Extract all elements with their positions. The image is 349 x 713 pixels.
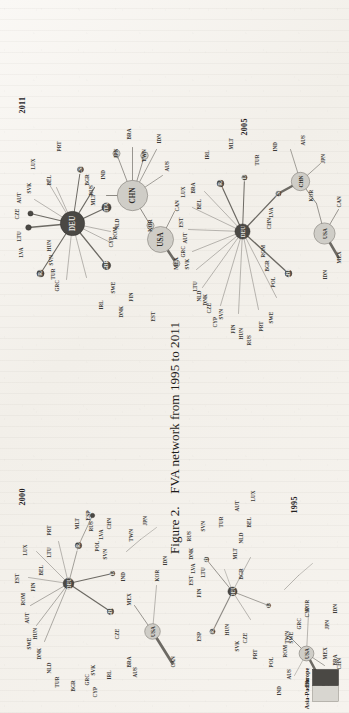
- node-label-gbr-1995: GBR: [203, 553, 209, 565]
- svg-text:HUN: HUN: [237, 327, 243, 339]
- svg-text:MLT: MLT: [73, 517, 79, 529]
- svg-text:SVK: SVK: [89, 664, 95, 675]
- node-label-fra-1995: FRA: [209, 625, 215, 636]
- node-label-usa-2000: USA: [149, 626, 155, 637]
- svg-text:SVN: SVN: [217, 308, 223, 319]
- svg-text:FIN: FIN: [229, 324, 235, 333]
- year-label-1995: 1995: [289, 496, 298, 513]
- svg-text:JPN: JPN: [319, 153, 325, 163]
- node-label-esp-2005: ESP: [275, 187, 281, 198]
- figure-caption: Figure 2. FVA network from 1995 to 2011: [167, 322, 183, 554]
- node-label-gbr-2005: GBR: [285, 267, 291, 279]
- svg-text:AUT: AUT: [15, 191, 21, 203]
- svg-text:NLD: NLD: [237, 532, 243, 543]
- figure-caption-text: FVA network from 1995 to 2011: [167, 322, 182, 494]
- svg-text:PRT: PRT: [251, 648, 257, 659]
- svg-text:BRA: BRA: [189, 182, 195, 193]
- svg-text:LTU: LTU: [199, 566, 205, 577]
- node-label-fra-2005: FRA: [217, 177, 223, 188]
- svg-text:SVN: SVN: [101, 548, 107, 559]
- node-label-esp-2000: ESP: [84, 509, 90, 520]
- svg-text:IDN: IDN: [161, 555, 167, 565]
- svg-text:DNK: DNK: [187, 547, 193, 559]
- svg-text:LTU: LTU: [191, 280, 197, 291]
- svg-text:POL: POL: [267, 656, 273, 667]
- node-label-ita-1995: ITA: [265, 600, 271, 609]
- svg-text:CZE: CZE: [113, 628, 119, 639]
- svg-text:BEL: BEL: [45, 174, 51, 185]
- svg-text:CYP: CYP: [91, 686, 97, 697]
- svg-text:NLD: NLD: [195, 290, 201, 301]
- legend-svg: Asia-Pacific Europe: [286, 637, 344, 707]
- svg-text:CHN: CHN: [265, 217, 271, 229]
- network-graph-2005: DEU FRA ITA GBR ESP CHN USA LUX GRC SVK …: [176, 99, 346, 349]
- node-nld-2011[interactable]: [25, 224, 31, 230]
- svg-text:AUT: AUT: [233, 499, 239, 511]
- svg-text:LTU: LTU: [15, 230, 21, 241]
- network-graph-2000: DEU FRA GBR ITA ESP USA EST LUX ROM FIN …: [6, 461, 178, 701]
- svg-text:BGR: BGR: [69, 679, 75, 691]
- svg-text:POL: POL: [93, 540, 99, 551]
- svg-text:POL: POL: [269, 276, 275, 287]
- svg-text:HUN: HUN: [45, 239, 51, 251]
- svg-text:LVA: LVA: [189, 563, 195, 573]
- svg-text:CAN: CAN: [169, 655, 175, 667]
- svg-text:DNK: DNK: [117, 305, 123, 317]
- svg-text:MEX: MEX: [335, 251, 341, 263]
- svg-text:LUX: LUX: [249, 490, 255, 501]
- svg-text:DNK: DNK: [201, 293, 207, 305]
- node-label-deu-2011: DEU: [69, 215, 77, 231]
- node-label-fra-2000: FRA: [75, 539, 81, 550]
- svg-text:BGR: BGR: [263, 259, 269, 271]
- svg-text:BEL: BEL: [245, 516, 251, 527]
- svg-text:TUR: TUR: [53, 676, 59, 687]
- node-bel-2011[interactable]: [27, 210, 32, 215]
- svg-text:MLT: MLT: [231, 547, 237, 559]
- svg-text:SVK: SVK: [233, 640, 239, 651]
- labels-2000: EST LUX ROM FIN BEL AUT HUN SWE DNK NLD …: [13, 515, 175, 697]
- svg-text:SWE: SWE: [25, 637, 31, 649]
- svg-text:AUS: AUS: [299, 134, 305, 145]
- svg-text:EST: EST: [187, 575, 193, 585]
- figure-legend: Asia-Pacific Europe: [286, 637, 344, 707]
- svg-text:MEX: MEX: [125, 593, 131, 605]
- network-graph-2011: DEU FRA GBR ITA ESP CHN USA JPN TWN KOR …: [10, 85, 180, 335]
- svg-text:PRT: PRT: [45, 524, 51, 535]
- panel-2005: DEU FRA ITA GBR ESP CHN USA LUX GRC SVK …: [176, 99, 346, 349]
- svg-text:IRL: IRL: [203, 149, 209, 159]
- svg-text:SVN: SVN: [199, 520, 205, 531]
- svg-text:IDN: IDN: [331, 603, 337, 613]
- node-label-gbr-2000: GBR: [107, 605, 113, 617]
- node-label-kor-2011: KOR: [147, 219, 153, 231]
- svg-text:BEL: BEL: [195, 198, 201, 209]
- svg-text:SVN: SVN: [47, 254, 53, 265]
- svg-text:BRA: BRA: [125, 128, 131, 139]
- svg-text:JPN: JPN: [141, 515, 147, 525]
- svg-text:TWN: TWN: [127, 528, 133, 541]
- svg-text:AUT: AUT: [181, 231, 187, 243]
- svg-text:LVA: LVA: [17, 247, 23, 257]
- svg-text:BGR: BGR: [237, 567, 243, 579]
- svg-text:IND: IND: [275, 685, 281, 695]
- svg-text:FIN: FIN: [29, 582, 35, 591]
- svg-text:RUS: RUS: [87, 520, 93, 531]
- svg-text:IRL: IRL: [105, 669, 111, 679]
- svg-text:LUX: LUX: [21, 544, 27, 555]
- svg-text:CHN: CHN: [105, 517, 111, 529]
- svg-text:ROM: ROM: [19, 592, 25, 605]
- node-label-esp-2011: ESP: [77, 163, 83, 174]
- svg-text:IND: IND: [99, 169, 105, 179]
- svg-text:CZE: CZE: [241, 632, 247, 643]
- year-label-2005: 2005: [239, 118, 248, 135]
- svg-text:LTU: LTU: [45, 546, 51, 557]
- node-label-ita-2000: ITA: [109, 568, 115, 577]
- legend-swatch-asia-pacific: [312, 685, 338, 701]
- node-label-ita-2005: ITA: [241, 172, 247, 181]
- node-label-ita-2011: ITA: [103, 202, 109, 211]
- node-label-chn-2011: CHN: [129, 186, 137, 203]
- svg-text:PRT: PRT: [257, 320, 263, 331]
- node-label-mex-2011: MEX: [173, 257, 179, 270]
- svg-text:SVK: SVK: [183, 258, 189, 269]
- svg-text:AUS: AUS: [163, 160, 169, 171]
- svg-text:AUS: AUS: [131, 666, 137, 677]
